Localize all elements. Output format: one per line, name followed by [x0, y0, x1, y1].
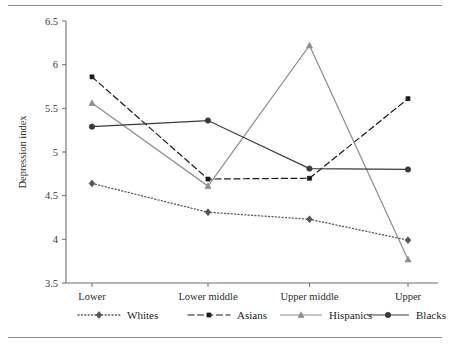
y-axis: 6.565.554.543.5 Depression index	[17, 16, 66, 289]
data-point	[308, 176, 312, 180]
y-tick-label: 6.5	[45, 16, 58, 27]
x-tick-label: Upper	[395, 291, 422, 302]
series-layer	[89, 42, 411, 262]
data-point	[90, 75, 94, 79]
data-point	[206, 177, 210, 181]
x-axis-ticks	[92, 283, 408, 287]
data-point	[405, 167, 410, 172]
y-tick-label: 5	[53, 147, 58, 158]
legend-label: Asians	[237, 309, 267, 321]
legend-marker-diamond-icon	[96, 312, 102, 319]
legend-item-blacks[interactable]: Blacks	[367, 309, 446, 321]
data-point	[205, 209, 211, 216]
legend-label: Blacks	[416, 309, 446, 321]
legend-label: Whites	[127, 309, 158, 321]
y-tick-label: 4	[53, 234, 59, 245]
data-point	[406, 97, 410, 101]
data-point	[89, 180, 95, 187]
line-chart: 6.565.554.543.5 Depression index LowerLo…	[0, 0, 450, 348]
y-tick-label: 4.5	[45, 190, 58, 201]
y-axis-ticks	[62, 21, 66, 283]
data-point	[405, 256, 411, 262]
x-tick-label: Upper middle	[280, 291, 338, 302]
legend-item-hispanics[interactable]: Hispanics	[280, 309, 372, 321]
data-point	[205, 118, 210, 123]
data-point	[405, 237, 411, 244]
legend-item-whites[interactable]: Whites	[78, 309, 158, 321]
y-tick-label: 3.5	[45, 278, 58, 289]
y-tick-label: 5.5	[45, 103, 58, 114]
x-axis: LowerLower middleUpper middleUpper	[66, 283, 438, 302]
data-point	[89, 100, 95, 106]
x-tick-label: Lower middle	[178, 291, 238, 302]
legend-marker-square-icon	[207, 313, 211, 317]
data-point	[306, 42, 312, 48]
series-whites	[89, 180, 411, 244]
legend-label: Hispanics	[329, 309, 372, 321]
data-point	[307, 166, 312, 171]
series-blacks	[89, 118, 410, 172]
figure-container: 6.565.554.543.5 Depression index LowerLo…	[0, 0, 450, 348]
legend-item-asians[interactable]: Asians	[188, 309, 267, 321]
legend-marker-circle-icon	[385, 312, 390, 317]
y-axis-title: Depression index	[17, 115, 28, 189]
x-axis-tick-labels: LowerLower middleUpper middleUpper	[78, 291, 421, 302]
series-hispanics	[89, 42, 411, 262]
data-point	[307, 216, 313, 223]
data-point	[89, 124, 94, 129]
y-tick-label: 6	[53, 59, 58, 70]
y-axis-tick-labels: 6.565.554.543.5	[45, 16, 59, 289]
legend: WhitesAsiansHispanicsBlacks	[78, 309, 446, 321]
x-tick-label: Lower	[78, 291, 106, 302]
